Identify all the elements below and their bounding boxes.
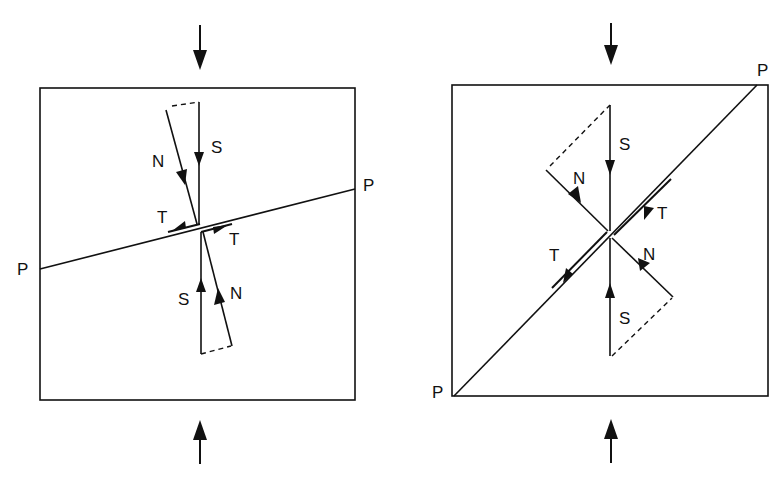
- compression-arrow-bottom-icon: [604, 419, 618, 463]
- plane-label-right: P: [363, 176, 374, 195]
- dashed-construction-top: [172, 102, 199, 106]
- normal-label-top: N: [573, 169, 585, 188]
- shear-arrowhead-top-icon: [172, 221, 186, 231]
- shear-arrowhead-bottom-icon: [213, 225, 228, 234]
- plane-label-top: P: [757, 61, 768, 80]
- stress-label-bottom: S: [619, 309, 630, 328]
- stress-arrowhead-bottom-icon: [605, 283, 615, 298]
- normal-label-top: N: [152, 152, 164, 171]
- stress-label-top: S: [619, 135, 630, 154]
- shear-vector-bottom: [552, 232, 607, 288]
- plane-label-bottom: P: [432, 383, 443, 402]
- normal-vector-top: [166, 110, 197, 224]
- stress-resolution-diagram: P P S N T T S N: [0, 0, 784, 488]
- normal-arrowhead-bottom-icon: [214, 288, 225, 305]
- right-panel: P P S N T T S N: [432, 23, 768, 463]
- plane-label-left: P: [17, 260, 28, 279]
- compression-arrow-top-icon: [193, 25, 207, 70]
- rock-block: [40, 88, 355, 400]
- shear-arrowhead-top-icon: [644, 206, 654, 220]
- left-panel: P P S N T T S N: [17, 25, 374, 464]
- dashed-construction-bottom: [201, 346, 231, 354]
- compression-arrow-bottom-icon: [193, 420, 207, 464]
- stress-arrowhead-top-icon: [605, 160, 615, 175]
- shear-label-top: T: [157, 208, 167, 227]
- compression-arrow-top-icon: [604, 23, 618, 65]
- stress-label-bottom: S: [178, 290, 189, 309]
- shear-label-bottom: T: [229, 230, 239, 249]
- shear-label-top: T: [657, 204, 667, 223]
- normal-arrowhead-top-icon: [568, 186, 581, 203]
- stress-label-top: S: [211, 138, 222, 157]
- plane-p-line: [454, 85, 757, 396]
- plane-p-line: [40, 189, 355, 269]
- normal-label-bottom: N: [230, 284, 242, 303]
- stress-arrowhead-bottom-icon: [196, 278, 206, 292]
- shear-label-bottom: T: [549, 246, 559, 265]
- stress-arrowhead-top-icon: [194, 152, 204, 166]
- normal-vector-bottom: [203, 232, 232, 346]
- normal-label-bottom: N: [643, 245, 655, 264]
- dashed-construction-top: [550, 105, 610, 166]
